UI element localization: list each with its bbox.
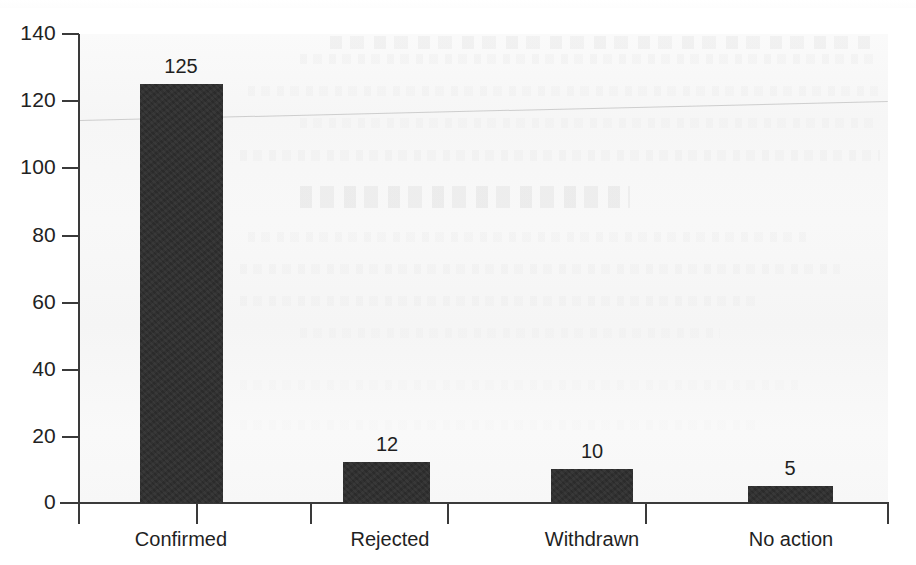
- ghost-text-line: [300, 54, 880, 64]
- y-axis-tick: [62, 436, 79, 438]
- ghost-text-line: [300, 118, 875, 128]
- x-axis-category-label-rejected: Rejected: [320, 528, 460, 551]
- y-axis-tick: [62, 167, 79, 169]
- bar-value-label: 12: [327, 433, 447, 456]
- ghost-text-line: [300, 328, 720, 338]
- bar-value-label: 125: [121, 55, 241, 78]
- ghost-text-line: [248, 232, 808, 242]
- chart-figure: 140 120 100 80 60 40 20 0 125 12 10 5 Co…: [0, 0, 916, 565]
- ghost-text-line: [330, 36, 870, 49]
- x-axis-tick: [645, 503, 647, 524]
- ghost-text-line: [240, 150, 880, 161]
- x-axis-category-label-confirmed: Confirmed: [111, 528, 251, 551]
- bar-confirmed[interactable]: [140, 84, 223, 503]
- y-axis-tick-label: 60: [0, 290, 56, 314]
- x-axis-tick: [310, 503, 312, 524]
- x-axis-tick: [447, 503, 449, 524]
- y-axis-tick-label: 0: [0, 490, 56, 514]
- x-axis-category-label-no-action: No action: [720, 528, 862, 551]
- y-axis-tick: [62, 502, 79, 504]
- bar-withdrawn[interactable]: [551, 469, 633, 503]
- x-axis-category-label-withdrawn: Withdrawn: [521, 528, 663, 551]
- ghost-text-line: [240, 420, 760, 430]
- y-axis-tick-label: 20: [0, 424, 56, 448]
- y-axis-tick: [62, 235, 79, 237]
- y-axis-tick-label: 40: [0, 357, 56, 381]
- scan-edge-top: [0, 0, 916, 8]
- y-axis-tick-label: 80: [0, 223, 56, 247]
- ghost-heading: [300, 186, 630, 208]
- y-axis-tick: [62, 302, 79, 304]
- ghost-text-line: [240, 264, 840, 274]
- x-axis-end-tick: [887, 502, 889, 524]
- y-axis-tick: [62, 100, 79, 102]
- ghost-text-line: [240, 296, 760, 306]
- x-axis-tick: [78, 503, 80, 524]
- ghost-text-line: [248, 86, 878, 96]
- x-axis-tick: [196, 503, 198, 524]
- y-axis-tick-label: 140: [0, 21, 56, 45]
- y-axis-line: [78, 34, 80, 512]
- y-axis-tick-label: 100: [0, 155, 56, 179]
- ghost-text-line: [240, 380, 800, 390]
- bar-value-label: 5: [730, 457, 850, 480]
- y-axis-tick: [62, 33, 79, 35]
- bar-value-label: 10: [532, 440, 652, 463]
- scan-edge-bottom: [0, 549, 916, 565]
- y-axis-tick-label: 120: [0, 88, 56, 112]
- bar-no-action[interactable]: [748, 486, 833, 503]
- bar-rejected[interactable]: [343, 462, 430, 503]
- y-axis-tick: [62, 369, 79, 371]
